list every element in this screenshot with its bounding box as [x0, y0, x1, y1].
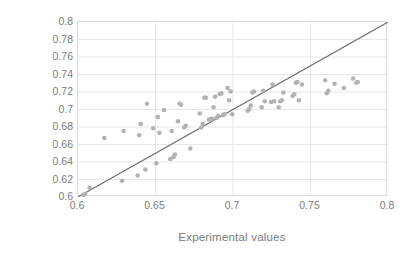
data-point	[179, 102, 184, 107]
y-tick-label: 0.68	[1, 120, 73, 132]
plot-canvas	[78, 22, 388, 197]
y-tick-label: 0.8	[1, 15, 73, 27]
data-point	[281, 90, 286, 95]
data-point	[169, 129, 174, 134]
y-tick-label: 0.64	[1, 155, 73, 167]
data-point	[280, 98, 285, 103]
data-point	[276, 105, 281, 110]
y-tick-label: 0.74	[1, 68, 73, 80]
data-point	[252, 89, 257, 94]
data-point	[200, 122, 205, 127]
y-tick-label: 0.6	[1, 190, 73, 202]
data-point	[326, 88, 331, 93]
data-point	[295, 80, 300, 85]
data-point	[183, 123, 188, 128]
y-tick-label: 0.66	[1, 138, 73, 150]
y-tick-label: 0.62	[1, 173, 73, 185]
data-point	[355, 80, 360, 85]
scatter-points	[81, 76, 360, 197]
data-point	[270, 82, 275, 87]
data-point	[351, 76, 356, 81]
data-point	[102, 136, 107, 141]
data-point	[227, 98, 232, 103]
data-point	[261, 88, 266, 93]
data-point	[222, 112, 227, 117]
x-tick-label: 0.7	[225, 199, 240, 211]
data-point	[176, 119, 181, 124]
x-axis-tick-labels: 0.60.650.70.750.8	[77, 199, 387, 217]
data-point	[249, 103, 254, 108]
data-point	[228, 89, 233, 94]
data-point	[197, 111, 202, 116]
y-tick-label: 0.72	[1, 85, 73, 97]
data-point	[137, 133, 142, 138]
data-point	[259, 105, 264, 110]
data-point	[156, 115, 161, 120]
data-point	[121, 129, 126, 134]
y-axis-tick-labels: 0.60.620.640.660.680.70.720.740.760.780.…	[0, 21, 73, 196]
data-point	[173, 152, 178, 157]
data-point	[135, 173, 140, 178]
data-point	[143, 167, 148, 172]
data-point	[138, 122, 143, 127]
data-point	[204, 95, 209, 100]
data-point	[151, 126, 156, 131]
data-point	[154, 161, 159, 166]
data-point	[213, 95, 218, 100]
data-point	[297, 98, 302, 103]
data-point	[225, 86, 230, 91]
data-point	[87, 186, 92, 191]
data-point	[211, 105, 216, 110]
data-point	[292, 92, 297, 97]
data-point	[332, 81, 337, 86]
y-tick-label: 0.78	[1, 33, 73, 45]
x-tick-label: 0.8	[380, 199, 395, 211]
data-point	[323, 78, 328, 83]
data-point	[83, 192, 88, 197]
x-tick-label: 0.65	[144, 199, 164, 211]
y-tick-label: 0.76	[1, 50, 73, 62]
plot-area	[77, 21, 387, 196]
x-tick-label: 0.6	[70, 199, 85, 211]
data-point	[272, 99, 277, 104]
x-tick-label: 0.75	[299, 199, 319, 211]
data-point	[145, 102, 150, 107]
data-point	[216, 114, 221, 119]
data-point	[210, 116, 215, 121]
x-axis-title: Experimental values	[77, 231, 387, 243]
data-point	[157, 130, 162, 135]
data-point	[262, 99, 267, 104]
data-point	[342, 86, 347, 91]
data-point	[300, 82, 305, 87]
data-point	[162, 108, 167, 113]
data-point	[188, 146, 193, 151]
data-point	[120, 179, 125, 184]
data-point	[230, 112, 235, 117]
y-tick-label: 0.7	[1, 103, 73, 115]
scatter-chart: Predicted Values 0.60.620.640.660.680.70…	[0, 0, 415, 254]
data-point	[219, 91, 224, 96]
